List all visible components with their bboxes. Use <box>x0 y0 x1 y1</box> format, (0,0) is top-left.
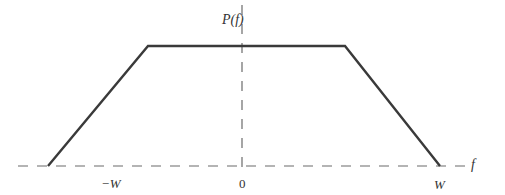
tick-label-neg-w: −W <box>101 177 121 190</box>
tick-label-zero: 0 <box>239 177 246 190</box>
y-axis-label: P(f) <box>222 13 244 27</box>
tick-label-pos-w: W <box>434 178 445 191</box>
trapezoid-spectrum-diagram <box>0 0 505 195</box>
trapezoid-curve <box>48 46 440 166</box>
x-axis-label: f <box>471 158 475 172</box>
